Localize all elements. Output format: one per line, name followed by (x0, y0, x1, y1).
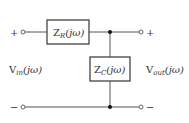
vout-subscript: out (153, 69, 165, 77)
input-plus-sign: + (10, 27, 18, 38)
output-minus-terminal (139, 105, 143, 109)
output-minus-sign: − (146, 102, 154, 113)
vout-label: Vout(jω) (145, 64, 184, 77)
zr-symbol: Z (53, 27, 60, 38)
bottom-junction-dot (108, 105, 112, 109)
input-plus-terminal (21, 30, 25, 34)
vout-argument: (jω) (165, 64, 184, 75)
input-minus-terminal (21, 105, 25, 109)
shunt-impedance-zc: ZC(jω) (90, 57, 130, 81)
output-plus-terminal (139, 30, 143, 34)
zc-symbol: Z (94, 64, 101, 75)
zr-argument: (jω) (65, 27, 84, 38)
input-minus-sign: − (10, 102, 18, 113)
output-plus-sign: + (146, 27, 154, 38)
series-impedance-zr: ZR(jω) (47, 20, 89, 44)
zc-argument: (jω) (106, 64, 125, 75)
top-junction-dot (108, 30, 112, 34)
vin-label: Vin(jω) (8, 64, 42, 77)
vin-argument: (jω) (23, 64, 42, 75)
circuit-diagram: ZR(jω) ZC(jω) + − + − Vin(jω) Vout(jω) (0, 0, 189, 123)
